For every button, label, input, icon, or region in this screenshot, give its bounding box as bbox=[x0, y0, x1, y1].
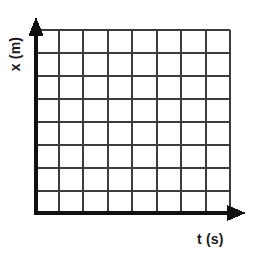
coordinate-grid-svg bbox=[0, 0, 255, 260]
graph-figure: x (m) t (s) bbox=[0, 0, 255, 260]
y-axis-label: x (m) bbox=[7, 26, 23, 82]
x-axis-label: t (s) bbox=[197, 231, 224, 247]
figure-background bbox=[0, 0, 255, 260]
